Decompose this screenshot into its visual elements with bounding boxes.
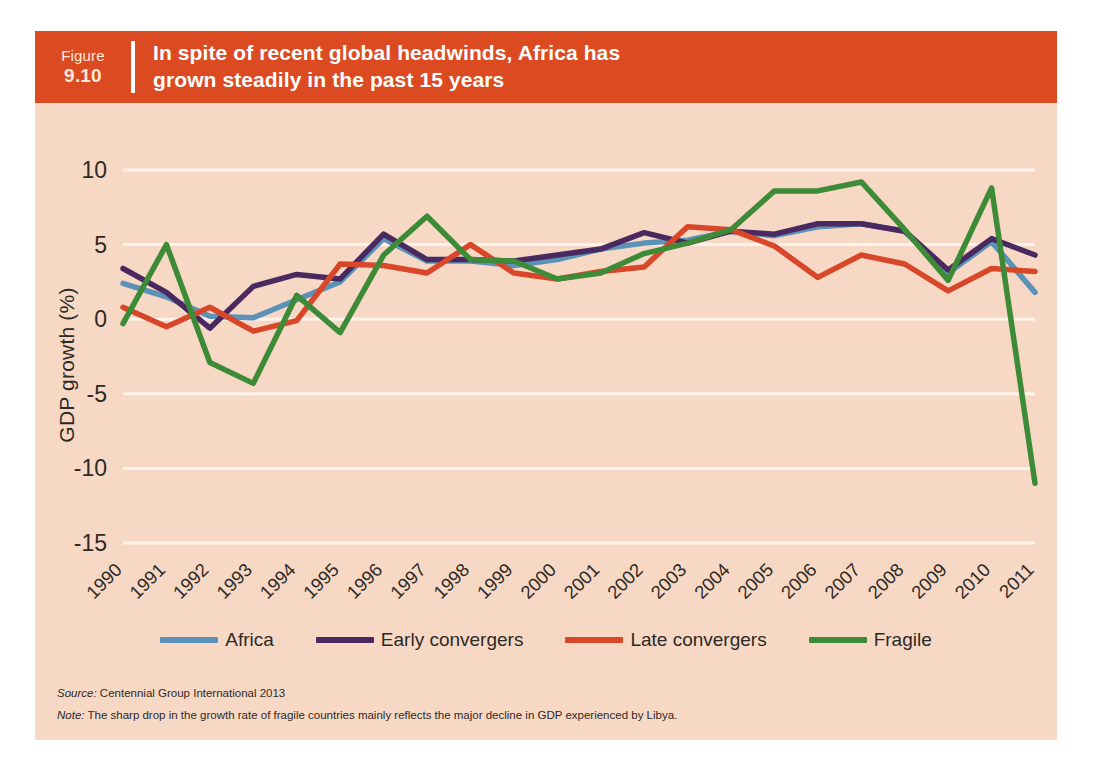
x-tick-label: 2004 <box>690 559 734 603</box>
series-line-fragile <box>123 182 1035 483</box>
legend-item-fragile[interactable]: Fragile <box>809 629 932 651</box>
x-tick-label: 1991 <box>125 559 169 603</box>
x-tick-label: 1992 <box>169 559 213 603</box>
line-chart-svg: 1050-5-10-15 199019911992199319941995199… <box>35 103 1057 703</box>
source-line: Source: Centennial Group International 2… <box>57 683 1037 704</box>
legend-label: Fragile <box>874 629 932 651</box>
x-tick-label: 1990 <box>82 559 126 603</box>
x-tick-label: 2005 <box>733 559 777 603</box>
legend-item-early-convergers[interactable]: Early convergers <box>316 629 524 651</box>
x-tick-label: 2002 <box>603 559 647 603</box>
figure-number-label: 9.10 <box>64 65 102 87</box>
x-tick-label: 2009 <box>907 559 951 603</box>
legend-label: Early convergers <box>381 629 524 651</box>
x-tick-label: 2008 <box>864 559 908 603</box>
legend-swatch-icon <box>316 637 374 643</box>
legend-swatch-icon <box>809 637 867 643</box>
x-tick-label: 1997 <box>386 559 430 603</box>
legend-swatch-icon <box>565 637 623 643</box>
figure-header-band: Figure 9.10 In spite of recent global he… <box>35 31 1057 103</box>
note-text: The sharp drop in the growth rate of fra… <box>88 709 678 721</box>
source-key-label: Source: <box>57 687 97 699</box>
legend-label: Late convergers <box>630 629 766 651</box>
x-tick-label: 2001 <box>560 559 604 603</box>
y-tick-label: 5 <box>94 232 107 258</box>
y-tick-label: -10 <box>74 455 107 481</box>
x-tick-label: 1999 <box>473 559 517 603</box>
figure-number-block: Figure 9.10 <box>35 31 131 103</box>
x-tick-label: 2003 <box>646 559 690 603</box>
figure-container: Figure 9.10 In spite of recent global he… <box>35 31 1057 740</box>
legend-label: Africa <box>225 629 274 651</box>
note-key-label: Note: <box>57 709 85 721</box>
x-tick-label: 2011 <box>995 559 1038 602</box>
x-tick-label: 2010 <box>950 559 994 603</box>
y-tick-label: -5 <box>87 381 107 407</box>
y-tick-labels-group: 1050-5-10-15 <box>74 157 107 556</box>
x-tick-label: 1996 <box>342 559 386 603</box>
y-tick-label: 0 <box>94 306 107 332</box>
x-tick-labels-group: 1990199119921993199419951996199719981999… <box>82 559 1038 603</box>
note-line: Note: The sharp drop in the growth rate … <box>57 705 1037 726</box>
x-tick-label: 1995 <box>299 559 343 603</box>
data-series-group <box>123 182 1035 483</box>
x-tick-label: 2007 <box>820 559 864 603</box>
figure-title: In spite of recent global headwinds, Afr… <box>135 31 1057 103</box>
legend-swatch-icon <box>160 637 218 643</box>
y-tick-label: 10 <box>81 157 107 183</box>
y-tick-label: -15 <box>74 530 107 556</box>
series-line-africa <box>123 224 1035 318</box>
x-tick-label: 1993 <box>212 559 256 603</box>
chart-legend: AfricaEarly convergersLate convergersFra… <box>35 629 1057 651</box>
x-tick-label: 1998 <box>429 559 473 603</box>
x-tick-label: 2000 <box>516 559 560 603</box>
x-tick-label: 1994 <box>256 559 300 603</box>
source-text: Centennial Group International 2013 <box>100 687 285 699</box>
legend-item-late-convergers[interactable]: Late convergers <box>565 629 766 651</box>
legend-item-africa[interactable]: Africa <box>160 629 274 651</box>
figure-footnotes: Source: Centennial Group International 2… <box>57 683 1037 726</box>
x-tick-label: 2006 <box>777 559 821 603</box>
figure-word-label: Figure <box>61 47 105 64</box>
